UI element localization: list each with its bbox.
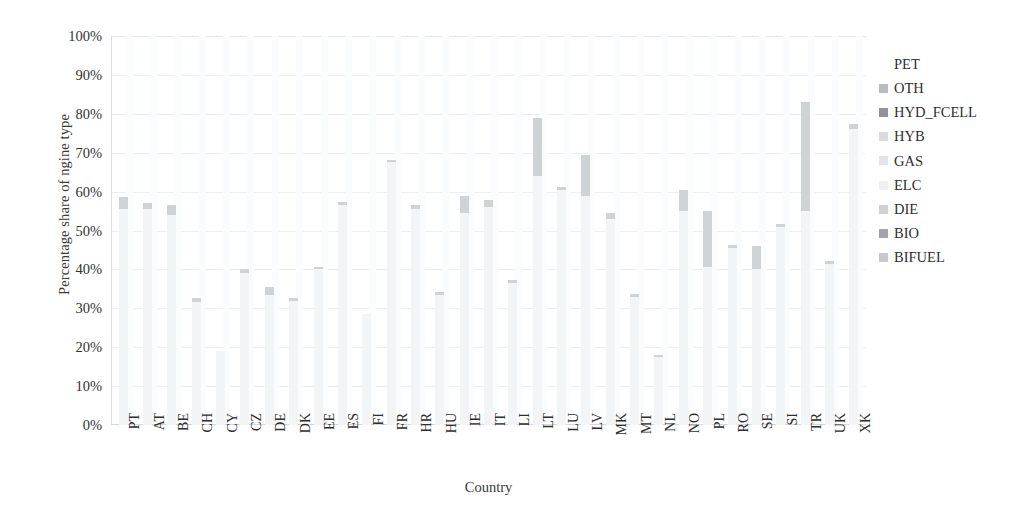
y-axis-tick-label: 90% <box>48 68 102 83</box>
legend-item[interactable]: BIO <box>879 221 1027 245</box>
bar-segment <box>508 283 517 425</box>
x-axis-tick-labels: PTATBECHCYCZDEDKEEESFIFRHRHUIEITLILTLULV… <box>111 425 866 485</box>
bar-segment <box>849 129 858 425</box>
legend-item[interactable]: OTH <box>879 76 1027 100</box>
x-axis-tick-label: BE <box>177 413 191 473</box>
bar-segment <box>119 209 128 425</box>
bar-segment <box>630 297 639 425</box>
x-axis-tick-label: LV <box>591 413 605 473</box>
bar-segment <box>460 196 469 214</box>
bar-segment <box>362 314 371 425</box>
bar-segment <box>728 248 737 425</box>
legend-swatch-icon <box>879 181 888 190</box>
bar-segment <box>265 295 274 425</box>
bar-segment <box>849 124 858 130</box>
bar-group[interactable] <box>776 224 785 425</box>
x-axis-tick-label: LI <box>518 413 532 473</box>
bar-segment <box>801 102 810 211</box>
bar-group[interactable] <box>240 269 249 425</box>
bar-group[interactable] <box>119 197 128 425</box>
bar-group[interactable] <box>825 261 834 425</box>
legend-item[interactable]: DIE <box>879 197 1027 221</box>
bar-group[interactable] <box>581 155 590 425</box>
bar-segment <box>216 351 225 425</box>
bar-segment <box>435 295 444 425</box>
x-axis-tick-label: IT <box>494 413 508 473</box>
y-axis-tick-label: 10% <box>48 379 102 394</box>
bar-segment <box>606 219 615 425</box>
bar-group[interactable] <box>314 267 323 425</box>
legend-item[interactable]: GAS <box>879 149 1027 173</box>
bar-segment <box>167 215 176 425</box>
bar-group[interactable] <box>265 287 274 425</box>
bar-group[interactable] <box>192 298 201 425</box>
bar-group[interactable] <box>728 245 737 425</box>
x-axis-tick-label: XK <box>859 413 873 473</box>
x-axis-tick-label: PT <box>128 413 142 473</box>
bar-segment <box>776 227 785 425</box>
bar-segment <box>752 269 761 425</box>
bar-segment <box>752 246 761 269</box>
legend-swatch-icon <box>879 60 888 69</box>
legend-item[interactable]: ELC <box>879 173 1027 197</box>
bar-group[interactable] <box>167 205 176 425</box>
legend-item-label: OTH <box>894 81 924 96</box>
legend-swatch-icon <box>879 205 888 214</box>
bar-group[interactable] <box>484 200 493 425</box>
bar-segment <box>460 213 469 425</box>
x-axis-tick-label: UK <box>834 413 848 473</box>
x-axis-title: Country <box>111 479 866 496</box>
bar-segment <box>314 269 323 425</box>
bar-segment <box>143 209 152 425</box>
bar-segment <box>679 190 688 211</box>
x-axis-tick-label: MT <box>640 413 654 473</box>
legend-item-label: HYD_FCELL <box>894 105 977 120</box>
bar-group[interactable] <box>411 205 420 425</box>
bar-group[interactable] <box>460 196 469 426</box>
bar-group[interactable] <box>338 202 347 425</box>
bar-group[interactable] <box>630 294 639 425</box>
y-axis-tick-label: 40% <box>48 262 102 277</box>
x-axis-tick-label: SE <box>761 413 775 473</box>
x-axis-tick-label: IE <box>469 413 483 473</box>
bar-group[interactable] <box>289 298 298 425</box>
y-axis-tick-label: 20% <box>48 340 102 355</box>
bar-group[interactable] <box>533 118 542 425</box>
legend-item[interactable]: BIFUEL <box>879 246 1027 270</box>
bar-group[interactable] <box>679 190 688 425</box>
bar-segment <box>435 292 444 294</box>
x-axis-tick-label: MK <box>615 413 629 473</box>
bar-group[interactable] <box>216 351 225 425</box>
x-axis-tick-label: CY <box>226 413 240 473</box>
bar-segment <box>484 207 493 425</box>
x-axis-tick-label: CZ <box>250 413 264 473</box>
bar-segment <box>703 211 712 267</box>
x-axis-tick-label: ES <box>347 413 361 473</box>
bar-group[interactable] <box>508 280 517 425</box>
legend-item[interactable]: PET <box>879 52 1027 76</box>
bar-group[interactable] <box>801 102 810 425</box>
bar-group[interactable] <box>362 314 371 425</box>
bar-segment <box>728 245 737 248</box>
bar-group[interactable] <box>435 292 444 425</box>
legend-item[interactable]: HYD_FCELL <box>879 100 1027 124</box>
legend-swatch-icon <box>879 253 888 262</box>
bar-group[interactable] <box>606 213 615 425</box>
bar-segment <box>581 155 590 196</box>
legend-item[interactable]: HYB <box>879 125 1027 149</box>
bar-group[interactable] <box>387 160 396 425</box>
bar-group[interactable] <box>752 246 761 425</box>
bar-chart: Percentage share of ngine type 100%90%80… <box>0 0 1027 509</box>
bar-group[interactable] <box>703 211 712 425</box>
chart-legend: PETOTHHYD_FCELLHYBGASELCDIEBIOBIFUEL <box>879 52 1027 270</box>
bar-segment <box>533 176 542 425</box>
legend-item-label: GAS <box>894 154 923 169</box>
bar-group[interactable] <box>849 124 858 425</box>
bar-segment <box>801 211 810 425</box>
legend-swatch-icon <box>879 156 888 165</box>
x-axis-tick-label: NL <box>664 413 678 473</box>
bar-group[interactable] <box>557 187 566 425</box>
bar-group[interactable] <box>143 203 152 425</box>
legend-item-label: PET <box>894 57 920 72</box>
x-axis-tick-label: CH <box>201 413 215 473</box>
